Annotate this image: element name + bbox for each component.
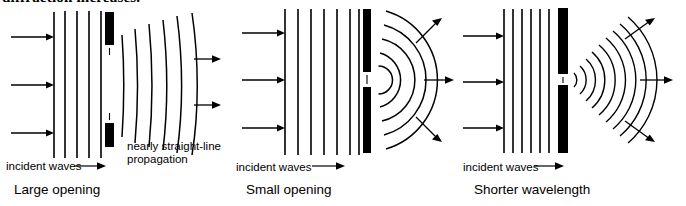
outgoing-arrows-large — [194, 55, 221, 109]
incident-arrows-small — [242, 29, 285, 131]
incident-waves-label-small: incident waves — [236, 161, 311, 173]
incident-wavefronts-large — [54, 11, 101, 158]
incident-wavefronts-shorter — [504, 9, 549, 153]
incident-arrows-large — [11, 33, 54, 136]
panel-title-shorter-wavelength: Shorter wavelength — [474, 182, 590, 197]
incident-arrows-shorter — [463, 32, 504, 131]
note-line-2: propagation — [127, 153, 227, 166]
incident-label-arrow-small — [312, 162, 345, 170]
panel-large-opening: incident waves nearly straight-line prop… — [0, 0, 230, 206]
incident-wavefronts-small — [285, 9, 359, 155]
panel-large-opening-drawing — [0, 0, 230, 206]
straight-line-propagation-note: nearly straight-line propagation — [127, 140, 227, 166]
incident-waves-label-shorter: incident waves — [463, 161, 538, 173]
barrier-large-opening — [105, 12, 114, 147]
note-line-1: nearly straight-line — [127, 140, 227, 153]
diffraction-figure: diffraction increases. — [0, 0, 686, 206]
incident-label-arrow-shorter — [534, 162, 564, 170]
panel-title-small-opening: Small opening — [246, 182, 332, 197]
panel-small-opening: incident waves Small opening — [228, 0, 458, 206]
incident-waves-label-large: incident waves — [6, 160, 81, 172]
panel-shorter-wavelength: incident waves Shorter wavelength — [456, 0, 686, 206]
panel-title-large-opening: Large opening — [14, 182, 100, 197]
transmitted-wavefronts-large — [122, 13, 197, 155]
panel-small-opening-drawing — [228, 0, 458, 206]
panel-shorter-wavelength-drawing — [456, 0, 686, 206]
outgoing-arrows-small — [416, 18, 454, 142]
